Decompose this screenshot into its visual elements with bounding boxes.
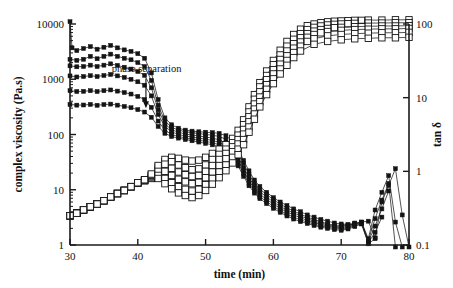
marker-filled-square <box>95 90 99 94</box>
marker-filled-square <box>373 230 377 234</box>
marker-filled-square <box>122 48 126 52</box>
marker-filled-square <box>115 103 119 107</box>
marker-open-square <box>189 188 195 194</box>
marker-filled-square <box>88 74 92 78</box>
marker-open-square <box>94 201 100 207</box>
marker-filled-square <box>109 88 113 92</box>
marker-filled-square <box>156 113 160 117</box>
marker-filled-square <box>156 124 160 128</box>
y-tick-label-left: 10 <box>53 184 65 196</box>
marker-filled-square <box>143 110 147 114</box>
marker-filled-square <box>95 57 99 61</box>
marker-filled-square <box>75 103 79 107</box>
marker-open-square <box>114 190 120 196</box>
marker-open-square <box>148 171 154 177</box>
marker-filled-square <box>88 63 92 67</box>
marker-open-square <box>189 180 195 186</box>
marker-filled-square <box>95 75 99 79</box>
marker-open-square <box>121 187 127 193</box>
marker-filled-square <box>285 214 289 218</box>
marker-open-square <box>209 181 215 187</box>
marker-filled-square <box>115 46 119 50</box>
marker-open-square <box>223 156 229 162</box>
marker-open-square <box>182 186 188 192</box>
marker-open-square <box>189 194 195 200</box>
marker-filled-square <box>102 73 106 77</box>
marker-open-square <box>175 190 181 196</box>
marker-filled-square <box>353 225 357 229</box>
marker-filled-square <box>305 222 309 226</box>
marker-filled-square <box>82 103 86 107</box>
marker-filled-square <box>88 54 92 58</box>
marker-open-square <box>392 35 398 41</box>
y-tick-label-left: 1000 <box>42 73 65 85</box>
marker-open-square <box>141 177 147 183</box>
y-tick-label-left: 1 <box>59 239 65 251</box>
marker-filled-square <box>380 215 384 219</box>
marker-filled-square <box>326 226 330 230</box>
marker-filled-square <box>82 89 86 93</box>
x-tick-label: 70 <box>336 250 348 262</box>
marker-filled-square <box>115 54 119 58</box>
marker-filled-square <box>380 198 384 202</box>
marker-filled-square <box>88 102 92 106</box>
marker-open-square <box>169 165 175 171</box>
marker-open-square <box>331 25 337 31</box>
marker-filled-square <box>190 139 194 143</box>
marker-open-square <box>182 192 188 198</box>
marker-filled-square <box>149 105 153 109</box>
figure-container: 3040506070801101001000100000.1110100comp… <box>0 0 453 288</box>
marker-open-square <box>189 173 195 179</box>
marker-filled-square <box>163 131 167 135</box>
marker-open-square <box>209 156 215 162</box>
y-axis-title-left: complex viscosity (Pa.s) <box>12 76 25 192</box>
marker-filled-square <box>224 137 228 141</box>
marker-open-square <box>338 37 344 43</box>
phase-separation-label: phase separation <box>112 63 182 74</box>
marker-filled-square <box>271 206 275 210</box>
marker-filled-square <box>136 52 140 56</box>
marker-open-square <box>352 36 358 42</box>
marker-filled-square <box>143 56 147 60</box>
marker-open-square <box>101 197 107 203</box>
marker-filled-square <box>136 94 140 98</box>
marker-open-square <box>379 35 385 41</box>
marker-filled-square <box>102 54 106 58</box>
marker-filled-square <box>387 181 391 185</box>
y-tick-label-right: 100 <box>416 18 433 30</box>
marker-open-square <box>107 194 113 200</box>
marker-filled-square <box>332 228 336 232</box>
marker-filled-square <box>122 104 126 108</box>
marker-filled-square <box>247 184 251 188</box>
marker-filled-square <box>292 217 296 221</box>
marker-filled-square <box>387 174 391 178</box>
marker-open-square <box>169 186 175 192</box>
marker-filled-square <box>136 80 140 84</box>
marker-open-square <box>162 168 168 174</box>
marker-open-square <box>196 186 202 192</box>
marker-filled-square <box>95 103 99 107</box>
marker-open-square <box>345 20 351 26</box>
marker-filled-square <box>373 208 377 212</box>
marker-open-square <box>87 204 93 210</box>
marker-open-square <box>175 169 181 175</box>
marker-open-square <box>304 38 310 44</box>
marker-open-square <box>291 54 297 60</box>
marker-open-square <box>270 80 276 86</box>
marker-open-square <box>257 104 263 110</box>
marker-filled-square <box>156 119 160 123</box>
marker-open-square <box>196 166 202 172</box>
complex-viscosity-tan-delta-chart: 3040506070801101001000100000.1110100comp… <box>0 0 453 288</box>
marker-open-square <box>182 172 188 178</box>
marker-open-square <box>182 179 188 185</box>
marker-open-square <box>175 176 181 182</box>
marker-open-square <box>251 116 257 122</box>
marker-open-square <box>196 192 202 198</box>
x-tick-label: 80 <box>404 250 416 262</box>
marker-filled-square <box>122 91 126 95</box>
marker-open-square <box>189 167 195 173</box>
marker-open-square <box>284 62 290 68</box>
marker-filled-square <box>204 141 208 145</box>
y-tick-label-right: 1 <box>416 165 422 177</box>
marker-filled-square <box>75 65 79 69</box>
